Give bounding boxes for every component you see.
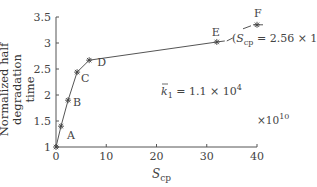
asterisk-marker [214, 39, 220, 45]
point-label-b: B [73, 96, 81, 109]
asterisk-marker [254, 22, 260, 28]
asterisk-marker [65, 97, 71, 103]
svg-text:(Scp = 2.56 × 1013): (Scp = 2.56 × 1013) [232, 30, 317, 47]
point-label-c: C [81, 72, 89, 85]
point-label-f: F [254, 7, 262, 20]
x-tick-label: 20 [150, 150, 164, 163]
asterisk-marker [74, 69, 80, 75]
f-value-annotation: (Scp = 2.56 × 1013) [232, 30, 317, 47]
point-label-d: D [97, 56, 106, 69]
asterisk-marker [58, 123, 64, 129]
asterisk-marker [53, 144, 59, 150]
asterisk-marker [86, 57, 92, 63]
svg-text:k1 = 1.1 × 104: k1 = 1.1 × 104 [161, 83, 242, 100]
y-tick-label: 2 [44, 89, 51, 102]
x-tick-label: 30 [200, 150, 214, 163]
y-tick-label: 1 [44, 141, 51, 154]
y-tick-label: 3 [44, 37, 51, 50]
x-tick-label: 0 [53, 150, 60, 163]
y-tick-label: 2.5 [34, 63, 52, 76]
line-chart: 01020304011.522.533.5 ABCDEF ×1010 Scp k… [0, 0, 317, 187]
x-axis-label: Scp [152, 167, 171, 183]
point-label-e: E [212, 26, 220, 39]
point-label-a: A [66, 129, 76, 142]
x-tick-label: 40 [250, 150, 264, 163]
x-tick-label: 10 [99, 150, 113, 163]
point-labels: ABCDEF [66, 7, 262, 142]
y-tick-label: 1.5 [34, 115, 52, 128]
x-multiplier: ×1010 [257, 112, 289, 126]
rate-constant-annotation: k1 = 1.1 × 104 [161, 83, 242, 100]
y-tick-label: 3.5 [34, 11, 52, 24]
